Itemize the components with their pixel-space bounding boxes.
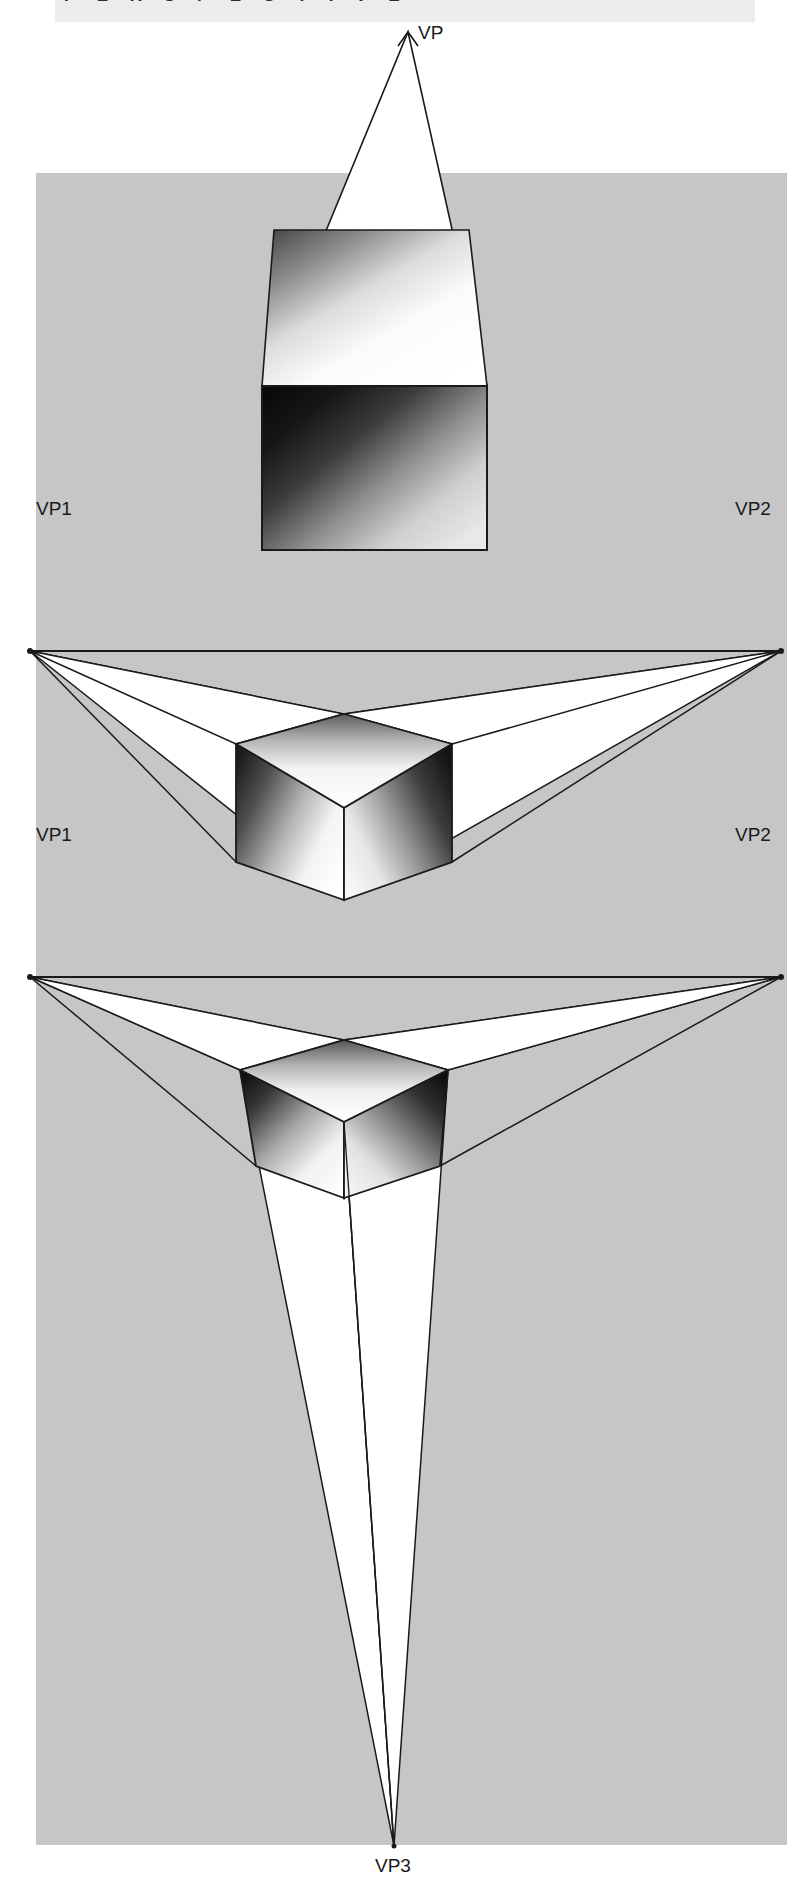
three-point-vp1-marker [27, 974, 33, 980]
three-point-vp2-marker [778, 974, 784, 980]
perspective-diagrams [0, 0, 808, 1895]
vanishing-point-label-vp3: VP3 [375, 1855, 411, 1877]
one-point-cube-front-face [262, 386, 487, 550]
vanishing-point-label-vp1-two-point: VP1 [36, 498, 72, 520]
vanishing-point-label-vp: VP [418, 22, 443, 44]
figure-three-point-perspective [27, 974, 784, 1849]
three-point-right-upper-guide [344, 977, 781, 1070]
vanishing-point-label-vp1-three-point: VP1 [36, 824, 72, 846]
three-point-vp3-marker [392, 1844, 397, 1849]
two-point-vp2-marker [778, 648, 784, 654]
two-point-vp1-marker [27, 648, 33, 654]
one-point-cube-top-face [262, 230, 487, 386]
vanishing-point-label-vp2-two-point: VP2 [735, 498, 771, 520]
figure-one-point-perspective [262, 32, 487, 550]
vanishing-point-label-vp2-three-point: VP2 [735, 824, 771, 846]
figure-two-point-perspective [27, 648, 784, 900]
